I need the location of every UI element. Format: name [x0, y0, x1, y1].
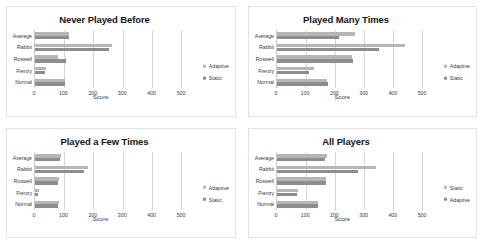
plot-canvas: AverageRabbitRoswellFrenzyNormal — [276, 152, 422, 210]
chart-legend: AdaptiveStatic — [444, 63, 470, 81]
category-row: Average — [277, 153, 422, 163]
category-row: Frenzy — [35, 66, 181, 76]
x-tick-label: 300 — [359, 212, 368, 218]
legend-item: Static — [444, 184, 470, 190]
category-rows: AverageRabbitRoswellFrenzyNormal — [35, 152, 181, 210]
category-row: Roswell — [35, 54, 181, 64]
category-row: Average — [277, 31, 422, 41]
panel-content: All PlayersAverageRabbitRoswellFrenzyNor… — [248, 136, 478, 243]
category-label: Frenzy — [258, 190, 274, 196]
bar-static — [35, 193, 38, 196]
legend-label: Adaptive — [450, 196, 470, 202]
category-label: Frenzy — [16, 190, 32, 196]
legend-item: Static — [203, 75, 229, 81]
x-tick-label: 500 — [177, 212, 186, 218]
plot-canvas: AverageRabbitRoswellFrenzyNormal — [34, 30, 181, 88]
x-axis: 0100200300400500Score — [34, 210, 181, 224]
bar-static — [277, 82, 328, 85]
category-label: Average — [255, 33, 274, 39]
category-label: Normal — [257, 201, 274, 207]
chart-title: All Players — [248, 136, 478, 147]
bar-static — [277, 48, 379, 51]
bar-adaptive — [35, 189, 39, 192]
x-tick-label: 0 — [33, 90, 36, 96]
category-row: Roswell — [277, 176, 422, 186]
legend-item: Static — [203, 196, 229, 202]
bar-adaptive — [277, 67, 314, 70]
x-tick-label: 300 — [359, 90, 368, 96]
chart-legend: AdaptiveStatic — [203, 63, 229, 81]
category-label: Rabbit — [259, 44, 274, 50]
legend-item: Adaptive — [203, 184, 229, 190]
chart-legend: AdaptiveStatic — [203, 184, 229, 202]
bar-static — [35, 170, 84, 173]
category-label: Average — [255, 155, 274, 161]
bar-static — [277, 154, 327, 157]
bar-static — [35, 204, 58, 207]
chart-grid: Never Played BeforeAverageRabbitRoswellF… — [0, 0, 483, 243]
category-label: Roswell — [256, 56, 274, 62]
x-axis: 0100200300400500Score — [276, 210, 422, 224]
bar-static — [277, 36, 339, 39]
category-label: Normal — [15, 79, 32, 85]
category-row: Rabbit — [35, 165, 181, 175]
bar-adaptive — [35, 32, 69, 35]
panel-content: Never Played BeforeAverageRabbitRoswellF… — [6, 14, 237, 128]
x-axis-title: Score — [93, 216, 109, 223]
plot-canvas: AverageRabbitRoswellFrenzyNormal — [34, 152, 181, 210]
chart-panel: Never Played BeforeAverageRabbitRoswellF… — [0, 0, 242, 122]
bar-static — [277, 71, 309, 74]
category-row: Frenzy — [277, 188, 422, 198]
category-row: Frenzy — [35, 188, 181, 198]
category-row: Rabbit — [35, 43, 181, 53]
chart-panel: Played Many TimesAverageRabbitRoswellFre… — [242, 0, 483, 122]
x-tick-label: 100 — [301, 90, 310, 96]
bar-static — [277, 59, 353, 62]
category-row: Normal — [35, 199, 181, 209]
category-row: Roswell — [35, 176, 181, 186]
chart-legend: StaticAdaptive — [444, 184, 470, 202]
category-label: Rabbit — [259, 166, 274, 172]
bar-static — [277, 201, 318, 204]
category-label: Roswell — [14, 178, 32, 184]
category-label: Frenzy — [258, 68, 274, 74]
x-axis: 0100200300400500Score — [276, 88, 422, 102]
bar-adaptive — [277, 193, 297, 196]
bar-adaptive — [277, 32, 355, 35]
legend-swatch-icon — [203, 198, 206, 201]
bar-adaptive — [277, 181, 326, 184]
legend-swatch-icon — [444, 198, 447, 201]
category-rows: AverageRabbitRoswellFrenzyNormal — [35, 30, 181, 88]
bar-static — [35, 181, 58, 184]
category-rows: AverageRabbitRoswellFrenzyNormal — [277, 152, 422, 210]
x-tick-label: 300 — [118, 212, 127, 218]
legend-swatch-icon — [444, 186, 447, 189]
category-label: Frenzy — [16, 68, 32, 74]
legend-label: Adaptive — [209, 184, 229, 190]
chart-panel: Played a Few TimesAverageRabbitRoswellFr… — [0, 122, 242, 243]
x-axis-title: Score — [334, 216, 350, 223]
bar-static — [277, 189, 298, 192]
gridline — [422, 152, 423, 210]
category-label: Average — [13, 155, 32, 161]
x-tick-label: 0 — [275, 212, 278, 218]
bar-static — [35, 82, 65, 85]
category-label: Roswell — [256, 178, 274, 184]
bar-static — [35, 71, 45, 74]
legend-swatch-icon — [203, 76, 206, 79]
legend-label: Static — [209, 75, 222, 81]
category-label: Roswell — [14, 56, 32, 62]
legend-label: Static — [209, 196, 222, 202]
legend-label: Static — [450, 75, 463, 81]
bar-adaptive — [35, 154, 61, 157]
category-row: Average — [35, 153, 181, 163]
bar-adaptive — [277, 204, 318, 207]
category-label: Rabbit — [17, 44, 32, 50]
legend-swatch-icon — [444, 76, 447, 79]
x-tick-label: 300 — [118, 90, 127, 96]
x-axis: 0100200300400500Score — [34, 88, 181, 102]
x-tick-label: 0 — [275, 90, 278, 96]
bar-adaptive — [277, 170, 358, 173]
category-row: Rabbit — [277, 165, 422, 175]
x-axis-title: Score — [93, 94, 109, 101]
